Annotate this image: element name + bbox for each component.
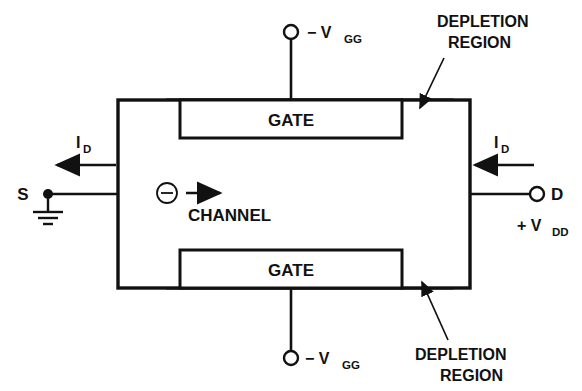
depletion-bottom-leader [422,282,448,340]
supply-sub: DD [552,226,569,238]
jfet-diagram: GATE GATE CHANNEL − V GG − V GG S [0,0,582,391]
depletion-top-line2: REGION [448,34,511,51]
depletion-top-line1: DEPLETION [437,13,529,30]
gate-bottom: GATE [180,250,402,288]
current-source: I D [57,134,116,165]
gate-top-terminal-label: − V [307,24,332,41]
annotation-depletion-top: DEPLETION REGION [420,13,529,108]
terminal-circle-bottom[interactable] [284,351,298,365]
gate-bottom-terminal-sub: GG [342,359,360,371]
drain-label: D [551,185,563,204]
current-drain-label: I [494,134,498,151]
current-source-sub: D [83,143,91,155]
current-drain: I D [475,134,534,165]
drain-terminal[interactable] [470,187,544,201]
supply-label: + V [517,217,542,234]
current-drain-sub: D [501,143,509,155]
source-terminal[interactable] [33,189,118,224]
ground-icon [33,194,63,224]
gate-top-terminal[interactable] [284,25,298,100]
gate-top: GATE [180,100,402,138]
source-label: S [17,185,28,204]
annotation-depletion-bottom: DEPLETION REGION [415,282,507,384]
gate-top-label: GATE [268,111,314,130]
gate-top-terminal-sub: GG [344,33,362,45]
terminal-circle-top[interactable] [284,25,298,39]
gate-bottom-terminal[interactable] [284,288,298,365]
current-source-label: I [76,134,80,151]
gate-bottom-terminal-label: − V [305,350,330,367]
terminal-circle-drain[interactable] [530,187,544,201]
channel-label: CHANNEL [188,206,271,225]
depletion-bottom-line1: DEPLETION [415,346,507,363]
gate-bottom-label: GATE [268,261,314,280]
depletion-bottom-line2: REGION [440,367,503,384]
